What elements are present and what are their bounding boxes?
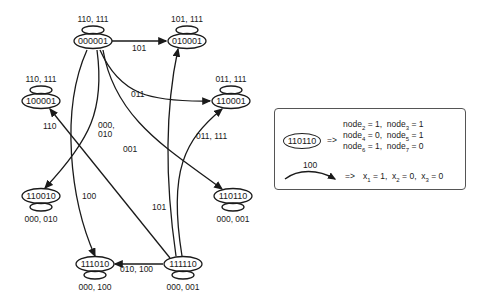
edge-000001-110110	[103, 50, 222, 189]
legend-node-example: 110110	[283, 133, 321, 149]
edge-000001-110001	[100, 50, 210, 101]
state-node-111110: 111110000, 001	[164, 257, 202, 293]
node-label: 010001	[172, 36, 202, 46]
legend-edge-arrow-sign: =>	[345, 171, 355, 181]
self-loop-icon	[172, 271, 194, 279]
node-label: 000001	[78, 36, 108, 46]
edge-label: 010, 100	[120, 264, 153, 274]
node-label: 100001	[26, 96, 56, 106]
node-label: 110001	[216, 96, 245, 106]
legend-node-line-3: node6 = 1, node7 = 0	[343, 141, 423, 155]
self-loop-label: 101, 111	[171, 14, 203, 24]
self-loop-icon	[176, 26, 198, 34]
edge-label: 101	[132, 43, 146, 53]
legend-edge-label: 100	[303, 160, 317, 170]
self-loop-label: 011, 111	[215, 74, 246, 84]
state-node-110010: 110010000, 010	[22, 189, 60, 225]
self-loop-icon	[220, 86, 242, 94]
edge-label: 101	[152, 202, 166, 212]
self-loop-label: 000, 001	[166, 282, 199, 292]
state-node-111010: 111010000, 100	[76, 257, 114, 293]
legend-node-arrow: =>	[327, 135, 337, 145]
legend-edge-line: x1 = 1, x2 = 0, x3 = 0	[363, 171, 443, 185]
edge-label: 001	[123, 144, 137, 154]
state-node-000001: 000001110, 111	[74, 14, 112, 49]
self-loop-label: 110, 111	[25, 74, 56, 84]
self-loop-icon	[84, 271, 106, 279]
self-loop-icon	[222, 203, 244, 211]
self-loop-icon	[82, 26, 104, 34]
node-label: 111010	[81, 259, 110, 269]
self-loop-label: 000, 100	[78, 282, 111, 292]
edge-label: 011	[131, 89, 145, 99]
self-loop-label: 110, 111	[77, 14, 108, 24]
state-node-010001: 010001101, 111	[168, 14, 206, 49]
self-loop-icon	[30, 203, 52, 211]
state-node-110110: 110110000, 001	[214, 189, 252, 225]
state-node-110001: 110001011, 111	[212, 74, 250, 109]
self-loop-label: 000, 010	[24, 214, 57, 224]
edge-label: 110	[43, 121, 57, 131]
node-label: 110010	[26, 191, 55, 201]
edge-label: 011, 111	[196, 131, 227, 141]
legend-box: 110110 => node2 = 1, node3 = 1 node4 = 0…	[274, 108, 466, 190]
edge-label: 000,010	[98, 120, 115, 139]
state-node-100001: 100001110, 111	[22, 74, 60, 109]
self-loop-label: 000, 001	[216, 214, 249, 224]
node-label: 110110	[219, 191, 248, 201]
edge-label: 100	[82, 191, 96, 201]
node-label: 111110	[169, 259, 196, 269]
self-loop-icon	[30, 86, 52, 94]
